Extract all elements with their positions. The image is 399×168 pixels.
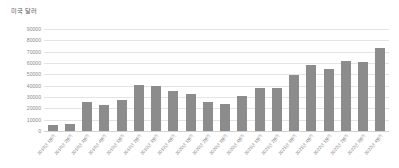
bar-slot xyxy=(217,29,234,131)
bar-slot xyxy=(286,29,303,131)
bar[interactable] xyxy=(237,96,247,131)
bar[interactable] xyxy=(375,48,385,131)
bar[interactable] xyxy=(117,100,127,131)
bar-slot xyxy=(320,29,337,131)
bar-slot xyxy=(79,29,96,131)
x-label-slot: 2022년 4분기 xyxy=(372,133,389,168)
bar[interactable] xyxy=(306,65,316,131)
bar-series xyxy=(44,29,389,131)
bar[interactable] xyxy=(134,85,144,131)
y-axis-tick-label: 50000 xyxy=(27,71,41,77)
y-axis-tick-label: 90000 xyxy=(27,26,41,32)
y-axis-tick-label: 40000 xyxy=(27,83,41,89)
bar-slot xyxy=(234,29,251,131)
bar[interactable] xyxy=(48,125,58,131)
bar[interactable] xyxy=(82,102,92,131)
bar-slot xyxy=(199,29,216,131)
bar-chart: 미국 달러 9000080000700006000050000400003000… xyxy=(0,0,399,168)
bar-slot xyxy=(113,29,130,131)
y-axis-tick-label: 80000 xyxy=(27,37,41,43)
bar[interactable] xyxy=(168,91,178,131)
plot-area: 9000080000700006000050000400003000020000… xyxy=(44,29,389,131)
bar-slot xyxy=(303,29,320,131)
y-axis-tick-label: 60000 xyxy=(27,60,41,66)
y-axis-unit-label: 미국 달러 xyxy=(11,7,37,15)
bar[interactable] xyxy=(289,75,299,131)
bar[interactable] xyxy=(203,102,213,131)
bar-slot xyxy=(337,29,354,131)
bar-slot xyxy=(165,29,182,131)
bar[interactable] xyxy=(255,88,265,131)
y-axis-tick-label: 70000 xyxy=(27,49,41,55)
bar[interactable] xyxy=(151,86,161,131)
bar[interactable] xyxy=(99,105,109,131)
y-axis-tick-label: 20000 xyxy=(27,105,41,111)
bar[interactable] xyxy=(341,61,351,131)
bar-slot xyxy=(268,29,285,131)
bar-slot xyxy=(96,29,113,131)
bar-slot xyxy=(44,29,61,131)
bar-slot xyxy=(182,29,199,131)
bar[interactable] xyxy=(272,88,282,131)
bar-slot xyxy=(61,29,78,131)
bar-slot xyxy=(372,29,389,131)
bar-slot xyxy=(355,29,372,131)
y-axis-tick-label: 30000 xyxy=(27,94,41,100)
bar[interactable] xyxy=(324,69,334,131)
bar-slot xyxy=(148,29,165,131)
y-axis-tick-label: 0 xyxy=(38,128,41,134)
bar[interactable] xyxy=(220,104,230,131)
bar[interactable] xyxy=(65,124,75,131)
bar-slot xyxy=(251,29,268,131)
y-axis-tick-label: 10000 xyxy=(27,117,41,123)
bar[interactable] xyxy=(186,94,196,131)
bar[interactable] xyxy=(358,62,368,131)
bar-slot xyxy=(130,29,147,131)
x-axis-labels: 2018년 1분기2018년 2분기2018년 3분기2018년 4분기2019… xyxy=(44,133,389,168)
gridline: 0 xyxy=(44,131,389,132)
